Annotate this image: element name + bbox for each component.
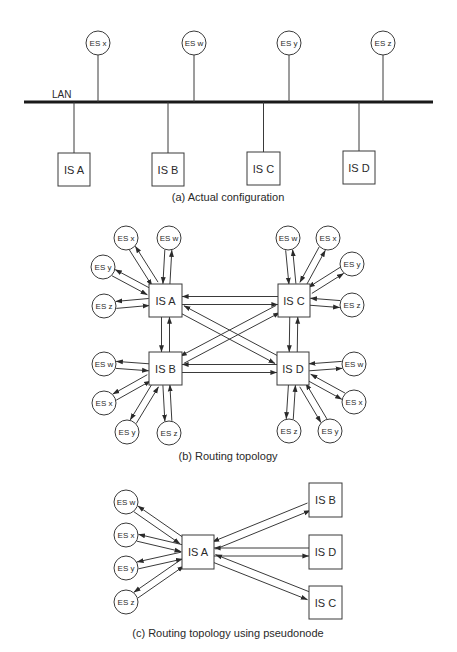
link-a-es-w-is-a bbox=[163, 250, 172, 284]
link-arrow-backward bbox=[310, 305, 340, 307]
link-d-es-w-is-d bbox=[309, 361, 343, 370]
intermediate-system-label: IS A bbox=[155, 295, 176, 307]
link-arrow-forward bbox=[213, 562, 308, 600]
link-is-a-is-d bbox=[214, 548, 309, 556]
link-arrow-backward bbox=[312, 273, 344, 293]
link-arrow-forward bbox=[138, 566, 184, 598]
end-system-c-es-w: ES w bbox=[276, 226, 300, 250]
intermediate-system-label: IS C bbox=[283, 295, 304, 307]
intermediate-system-is-a: IS A bbox=[58, 153, 90, 186]
intermediate-system-is-c: IS C bbox=[247, 152, 280, 185]
end-system-es-z: ES z bbox=[371, 31, 395, 55]
link-arrow-forward bbox=[180, 305, 276, 356]
end-system-a-es-x: ES x bbox=[114, 226, 138, 250]
link-arrow-forward bbox=[286, 250, 289, 284]
panel-actual-configuration: LANES xES wES yES zIS AIS BIS CIS D(a) A… bbox=[24, 31, 433, 203]
intermediate-system-label: IS C bbox=[253, 163, 274, 175]
link-arrow-backward bbox=[212, 503, 307, 542]
end-system-c-es-y: ES y bbox=[340, 252, 364, 276]
end-system-label: ES w bbox=[345, 360, 364, 369]
intermediate-system-is-b: IS B bbox=[149, 352, 182, 385]
end-system-label: ES z bbox=[96, 302, 113, 311]
osi-routing-diagram: LANES xES wES yES zIS AIS BIS CIS D(a) A… bbox=[0, 0, 457, 652]
end-system-label: ES z bbox=[161, 429, 178, 438]
link-arrow-forward bbox=[170, 385, 172, 421]
end-system-label: ES w bbox=[279, 234, 298, 243]
end-system-label: ES x bbox=[320, 234, 337, 243]
lan-label: LAN bbox=[52, 89, 71, 100]
end-system-label: ES z bbox=[281, 427, 298, 436]
end-system-es-w: ES w bbox=[114, 490, 138, 514]
end-system-a-es-y: ES y bbox=[91, 255, 115, 279]
panel-routing-topology: IS AIS CIS BIS DES xES wES yES zES wES x… bbox=[91, 226, 366, 462]
link-a-es-y-is-a bbox=[112, 270, 151, 295]
link-arrow-backward bbox=[138, 506, 184, 538]
end-system-b-es-y: ES y bbox=[115, 420, 139, 444]
end-system-label: ES x bbox=[118, 234, 135, 243]
link-es-w-is-a bbox=[134, 506, 184, 544]
intermediate-system-is-d: IS D bbox=[309, 535, 342, 569]
end-system-c-es-z: ES z bbox=[340, 293, 364, 317]
link-arrow-forward bbox=[311, 374, 345, 393]
end-system-c-es-x: ES x bbox=[316, 226, 340, 250]
link-b-es-z-is-b bbox=[163, 385, 172, 421]
link-a-es-z-is-a bbox=[116, 298, 150, 308]
figure-caption: (b) Routing topology bbox=[178, 450, 278, 462]
link-arrow-backward bbox=[113, 375, 148, 394]
link-arrow-forward bbox=[116, 381, 151, 400]
intermediate-system-is-d: IS D bbox=[343, 151, 375, 184]
link-arrow-backward bbox=[116, 361, 149, 363]
link-arrow-backward bbox=[163, 385, 165, 421]
link-is-b-is-d bbox=[182, 365, 277, 373]
link-d-es-z-is-d bbox=[286, 385, 295, 419]
link-arrow-backward bbox=[170, 250, 172, 284]
figure-caption: (a) Actual configuration bbox=[172, 191, 285, 203]
link-arrow-backward bbox=[286, 385, 288, 419]
intermediate-system-label: IS B bbox=[158, 164, 179, 176]
end-system-label: ES w bbox=[117, 498, 136, 507]
link-is-c-is-d bbox=[289, 317, 298, 352]
link-arrow-forward bbox=[180, 313, 275, 364]
end-system-es-z: ES z bbox=[114, 590, 138, 614]
end-system-label: ES x bbox=[346, 398, 363, 407]
end-system-label: ES z bbox=[344, 301, 361, 310]
end-system-es-x: ES x bbox=[114, 523, 138, 547]
link-arrow-forward bbox=[310, 298, 340, 300]
figure-caption: (c) Routing topology using pseudonode bbox=[132, 627, 323, 639]
end-system-label: ES y bbox=[119, 428, 136, 437]
link-arrow-forward bbox=[309, 361, 342, 363]
link-arrow-backward bbox=[307, 380, 341, 399]
intermediate-system-label: IS D bbox=[282, 363, 303, 375]
link-arrow-forward bbox=[163, 250, 165, 284]
intermediate-system-label: IS B bbox=[315, 494, 336, 506]
end-system-label: ES w bbox=[185, 39, 204, 48]
intermediate-system-label: IS A bbox=[64, 164, 85, 176]
end-system-label: ES y bbox=[95, 263, 112, 272]
link-is-a-is-c bbox=[213, 555, 311, 600]
end-system-label: ES z bbox=[375, 39, 392, 48]
diagram-svg: LANES xES wES yES zIS AIS BIS CIS D(a) A… bbox=[0, 0, 457, 652]
intermediate-system-is-b: IS B bbox=[152, 153, 184, 186]
link-arrow-forward bbox=[300, 247, 319, 282]
intermediate-system-is-b: IS B bbox=[309, 483, 342, 517]
link-is-a-is-b bbox=[212, 503, 310, 549]
link-c-es-x-is-c bbox=[300, 247, 325, 286]
end-system-es-y: ES y bbox=[114, 556, 138, 580]
link-arrow-backward bbox=[306, 250, 325, 285]
end-system-label: ES x bbox=[90, 39, 107, 48]
link-arrow-backward bbox=[184, 313, 280, 364]
end-system-es-y: ES y bbox=[277, 31, 301, 55]
intermediate-system-label: IS D bbox=[315, 546, 336, 558]
intermediate-system-is-a: IS A bbox=[149, 284, 182, 317]
intermediate-system-is-d: IS D bbox=[277, 352, 309, 385]
link-arrow-forward bbox=[289, 317, 290, 352]
link-arrow-forward bbox=[116, 368, 149, 370]
end-system-d-es-y: ES y bbox=[318, 419, 342, 443]
intermediate-system-label: IS D bbox=[348, 162, 369, 174]
link-arrow-forward bbox=[308, 267, 340, 287]
link-arrow-forward bbox=[112, 276, 147, 295]
end-system-d-es-w: ES w bbox=[342, 352, 366, 376]
end-system-label: ES z bbox=[118, 598, 135, 607]
intermediate-system-label: IS B bbox=[155, 363, 176, 375]
link-b-es-y-is-b bbox=[130, 383, 158, 423]
